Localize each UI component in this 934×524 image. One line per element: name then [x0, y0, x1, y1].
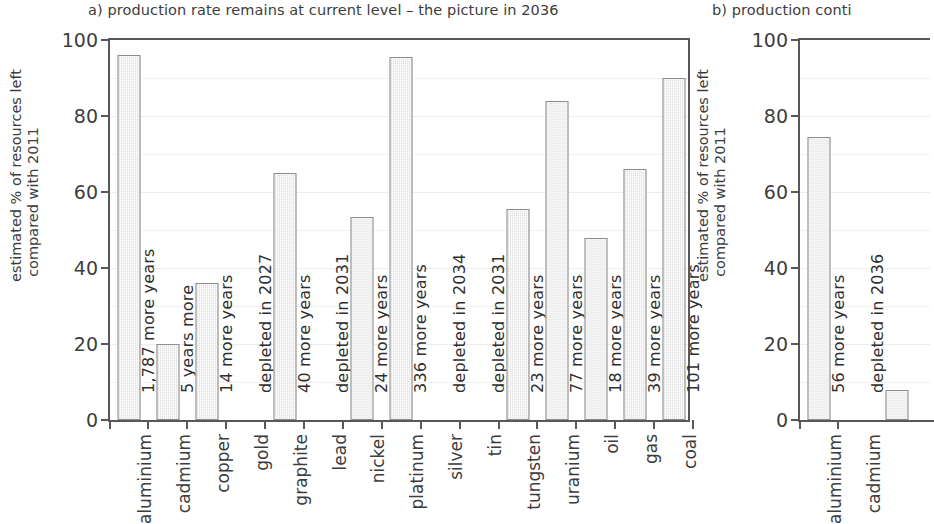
x-axis-tick-mark	[837, 420, 839, 429]
bar-group: 40 more years	[265, 40, 304, 420]
x-axis-tick-label: lead	[330, 434, 350, 470]
y-axis-tick-label: 40	[74, 257, 98, 279]
bar[interactable]	[662, 78, 685, 420]
chart-panel-a: a) production rate remains at current le…	[0, 0, 694, 524]
bar[interactable]	[808, 137, 831, 420]
x-axis-tick-mark	[420, 420, 422, 429]
bar[interactable]	[885, 390, 908, 420]
x-axis-tick-label: tin	[485, 434, 505, 456]
y-axis-title-line1: estimated % of resources left	[8, 69, 24, 282]
y-axis-tick-label: 20	[764, 333, 788, 355]
bar[interactable]	[195, 283, 218, 420]
y-axis-tick-label: 80	[74, 105, 98, 127]
bar-group: 336 more years	[382, 40, 421, 420]
x-axis-tick-label: graphite	[291, 434, 311, 506]
x-axis-tick-label: oil	[602, 434, 622, 454]
bar[interactable]	[545, 101, 568, 420]
y-axis-tick-label: 60	[74, 181, 98, 203]
x-axis-tick-label: aluminium	[135, 434, 155, 524]
x-axis-tick-mark	[498, 420, 500, 429]
y-axis-title-line2: compared with 2011	[25, 127, 41, 277]
panel-b-y-axis-title: estimated % of resources left compared w…	[695, 122, 729, 282]
bar[interactable]	[156, 344, 179, 420]
x-axis-tick-mark	[799, 420, 801, 429]
x-axis-tick-label: uranium	[563, 434, 583, 505]
bar-group: 14 more years	[187, 40, 226, 420]
x-axis-tick-label: cadmium	[174, 434, 194, 513]
bar[interactable]	[623, 169, 646, 420]
x-axis-tick-mark	[342, 420, 344, 429]
y-axis-tick-label: 0	[86, 409, 98, 431]
y-axis-title-line2: compared with 2011	[712, 127, 728, 277]
bar-group: depleted in 2034	[421, 40, 460, 420]
bar-group: depleted in 2031	[304, 40, 343, 420]
bar-group: 18 more years	[576, 40, 615, 420]
bar[interactable]	[118, 55, 141, 420]
x-axis-tick-mark	[264, 420, 266, 429]
bar[interactable]	[506, 209, 529, 420]
bar-group	[877, 40, 916, 420]
chart-panel-b: b) production conti estimated % of resou…	[694, 0, 898, 524]
x-axis-tick-label: cadmium	[864, 434, 884, 513]
bar[interactable]	[390, 57, 413, 420]
bar[interactable]	[351, 217, 374, 420]
panel-a-y-axis-title: estimated % of resources left compared w…	[8, 122, 42, 282]
x-axis-tick-label: gold	[252, 434, 272, 471]
x-axis-tick-label: nickel	[368, 434, 388, 483]
y-axis-tick-label: 20	[74, 333, 98, 355]
bar-group: 39 more years	[615, 40, 654, 420]
y-axis-tick-label: 80	[764, 105, 788, 127]
bar-group: 77 more years	[537, 40, 576, 420]
x-axis-tick-label: aluminium	[825, 434, 845, 524]
bar-group: 101 more years	[654, 40, 693, 420]
y-axis-tick-label: 100	[62, 29, 98, 51]
bar-group: depleted in 2031	[460, 40, 499, 420]
x-axis-tick-label: platinum	[407, 434, 427, 509]
x-axis-tick-label: silver	[446, 434, 466, 480]
x-axis-tick-label: tungsten	[524, 434, 544, 510]
bar-group: 56 more years	[800, 40, 839, 420]
x-axis-tick-mark	[536, 420, 538, 429]
bar-group: 23 more years	[499, 40, 538, 420]
x-axis-tick-label: copper	[213, 434, 233, 493]
x-axis-tick-label: gas	[641, 434, 661, 464]
x-axis-line	[798, 420, 934, 422]
x-axis-tick-mark	[459, 420, 461, 429]
x-axis-tick-mark	[225, 420, 227, 429]
x-axis-line	[108, 420, 690, 422]
y-axis-tick-label: 60	[764, 181, 788, 203]
bar-group: depleted in 2036	[838, 40, 877, 420]
bar[interactable]	[273, 173, 296, 420]
bar-group: 1,787 more years	[110, 40, 149, 420]
panel-a-plot-area: 020406080100 1,787 more yearsaluminium5 …	[108, 38, 690, 420]
panel-b-plot-area: 020406080100 56 more yearsaluminiumdeple…	[798, 38, 930, 420]
y-axis-tick-label: 40	[764, 257, 788, 279]
x-axis-tick-mark	[575, 420, 577, 429]
x-axis-tick-mark	[303, 420, 305, 429]
x-axis-tick-mark	[109, 420, 111, 429]
bar-group: 5 years more	[148, 40, 187, 420]
bar-group: 24 more years	[343, 40, 382, 420]
x-axis-tick-mark	[381, 420, 383, 429]
y-axis-title-line1: estimated % of resources left	[695, 69, 711, 282]
bar[interactable]	[584, 238, 607, 420]
x-axis-tick-mark	[653, 420, 655, 429]
x-axis-tick-mark	[147, 420, 149, 429]
x-axis-tick-mark	[614, 420, 616, 429]
x-axis-tick-mark	[186, 420, 188, 429]
bar-group: depleted in 2027	[226, 40, 265, 420]
y-axis-tick-label: 100	[752, 29, 788, 51]
panel-b-title: b) production conti	[712, 2, 852, 18]
y-axis-tick-label: 0	[776, 409, 788, 431]
panel-a-title: a) production rate remains at current le…	[88, 2, 559, 18]
